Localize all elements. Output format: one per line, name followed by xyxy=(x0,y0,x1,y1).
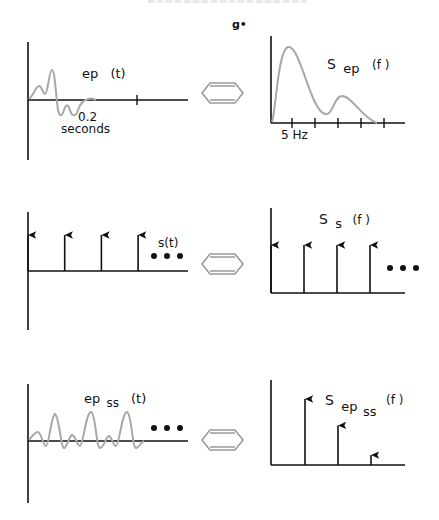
sepss-label-main: S xyxy=(325,392,334,408)
ep-label-main: ep xyxy=(82,66,98,81)
sepss-label-sub2: ss xyxy=(363,404,377,419)
dot xyxy=(400,265,406,271)
double-arrow-icon xyxy=(202,83,243,103)
equivalence-arrow-1 xyxy=(202,83,243,103)
sep-label-arg: (f ) xyxy=(372,58,389,72)
epss-label-sub: ss xyxy=(106,396,119,410)
ss-f-label: S s (f ) xyxy=(319,211,370,231)
ep-label-arg: (t) xyxy=(110,66,125,81)
ep-t-label: ep (t) xyxy=(82,66,126,81)
row-1-freq-plot: S ep (f ) 5 Hz xyxy=(271,36,405,142)
ss-label-sub: s xyxy=(335,216,342,231)
row-3-time-plot: ep ss (t) xyxy=(28,384,188,503)
continuation-dots xyxy=(151,425,183,431)
dot xyxy=(413,265,419,271)
diagram-canvas: g• ep (t) 0.2 seconds S ep (f ) 5 Hz s(t… xyxy=(0,0,439,520)
ep-spectrum-curve xyxy=(272,47,377,123)
double-arrow-icon xyxy=(202,430,243,450)
row-2-freq-plot: S s (f ) xyxy=(271,208,419,293)
equivalence-arrow-3 xyxy=(202,430,243,450)
stray-mark: g• xyxy=(232,18,247,31)
dot xyxy=(387,265,393,271)
epss-label-arg: (t) xyxy=(131,391,146,406)
dot xyxy=(164,253,170,259)
ep-ss-waveform xyxy=(29,412,144,448)
dot xyxy=(151,425,157,431)
equivalence-arrow-2 xyxy=(202,254,243,274)
row-2-time-plot: s(t) xyxy=(28,212,188,330)
dot xyxy=(177,425,183,431)
sep-f-label: S ep (f ) xyxy=(327,56,389,76)
continuation-dots xyxy=(151,253,183,259)
ep-ss-t-label: ep ss (t) xyxy=(84,391,146,410)
row-1-time-plot: ep (t) 0.2 seconds xyxy=(28,42,188,160)
sepss-f-label: S ep ss (f ) xyxy=(325,392,403,419)
ss-label-arg: (f ) xyxy=(353,213,370,227)
freq-tick-label: 5 Hz xyxy=(281,128,308,142)
epss-label-main: ep xyxy=(84,391,100,406)
row-3-freq-plot: S ep ss (f ) xyxy=(271,380,405,465)
sep-label-sub: ep xyxy=(343,61,359,76)
dot xyxy=(164,425,170,431)
sepss-label-sub: ep xyxy=(341,399,357,414)
s-t-label: s(t) xyxy=(158,236,178,250)
dot xyxy=(177,253,183,259)
continuation-dots xyxy=(387,265,419,271)
sep-label-main: S xyxy=(327,56,336,72)
sepss-label-arg: (f ) xyxy=(386,393,403,407)
impulse-train xyxy=(28,235,138,271)
tick-unit-label: seconds xyxy=(61,122,110,136)
spectral-impulse-train xyxy=(271,245,370,293)
dot xyxy=(151,253,157,259)
double-arrow-icon xyxy=(202,254,243,274)
ss-label-main: S xyxy=(319,211,328,227)
